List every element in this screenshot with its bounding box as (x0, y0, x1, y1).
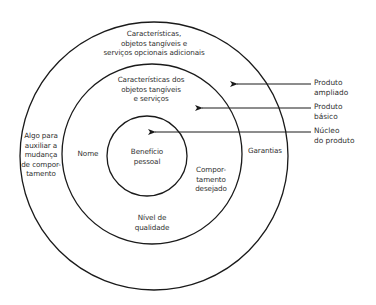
label-middle-bottom: Nível de qualidade (126, 213, 178, 232)
legend-augmented-product: Produto ampliado (314, 78, 348, 98)
label-outer-right: Garantias (243, 146, 287, 156)
legend-basic-product: Produto básico (314, 102, 343, 122)
label-outer-left: Algo para auxiliar a mudança de compor- … (20, 131, 62, 179)
label-outer-top: Características, objetos tangíveis e ser… (84, 29, 224, 58)
label-middle-right: Compor- tamento desejado (191, 165, 231, 194)
legend-core-product: Núcleo do produto (314, 126, 354, 146)
label-inner-center: Benefício pessoal (122, 147, 172, 166)
label-middle-top: Características dos objetos tangíveis e … (108, 75, 194, 104)
label-middle-left: Nome (70, 149, 106, 159)
